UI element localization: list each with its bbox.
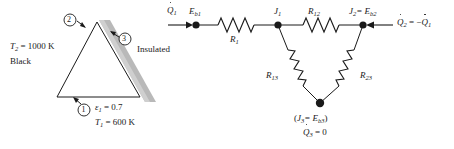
heat-flow-out-symbol: Q	[397, 17, 404, 28]
surface2-property-label: Black	[10, 56, 31, 66]
resistor-r23-zigzag	[336, 50, 354, 86]
heat-flow-in-label: Q1	[167, 5, 177, 18]
surface2-condition-label: T2 = 1000 K Black	[10, 40, 55, 67]
node-j3-label: (J3= Eb3)	[294, 113, 328, 126]
surface-marker-1-label: 1	[82, 104, 86, 115]
node-j2-equals: = E	[356, 6, 370, 16]
heat-flow-out-relation-sub: 1	[428, 21, 431, 28]
marker-2-text: 2	[67, 15, 71, 24]
resistor-r1-sub: 1	[236, 38, 239, 45]
marker-1-text: 1	[82, 105, 86, 114]
bottom-heat-flux-label: Q3 = 0	[303, 127, 327, 140]
node-j2-dot	[359, 21, 366, 28]
node-j1-sub: 1	[278, 10, 281, 17]
heat-flow-in-arrowhead	[186, 22, 193, 29]
surface3-insulated-label: Insulated	[137, 44, 170, 55]
node-j3-equals: = E	[304, 113, 318, 123]
heat-flow-out-arrowhead	[366, 22, 374, 29]
radiation-enclosure-and-network-figure: T2 = 1000 K Black Insulated ε1 = 0.7 T1 …	[0, 0, 454, 149]
heat-flow-out-relation-symbol: Q	[421, 17, 428, 28]
resistor-r23-sub: 23	[366, 74, 373, 81]
node-eb1-dot	[192, 21, 199, 28]
surface1-temperature-value: = 600 K	[106, 117, 136, 127]
node-j2-label: J2= Eb2	[349, 6, 377, 19]
resistor-r23-label: R23	[360, 70, 372, 83]
surface1-temperature-sub: 1	[100, 121, 103, 128]
node-j1-label: J1	[274, 6, 281, 19]
insulated-text: Insulated	[137, 44, 170, 54]
marker-3-text: 3	[122, 34, 126, 43]
node-eb1-sub: b1	[195, 10, 202, 17]
surface1-emissivity-sub: 1	[99, 106, 102, 113]
resistor-r13-zigzag	[288, 50, 306, 86]
surface2-temperature-sub: 2	[15, 45, 18, 52]
node-j3-paren-close: )	[325, 113, 328, 123]
resistor-r1-label: R1	[230, 34, 239, 47]
heat-flow-in-symbol: Q	[167, 5, 174, 16]
network-group	[168, 18, 393, 107]
surface2-temperature-value: = 1000 K	[21, 41, 55, 51]
wire-j1-to-r13	[278, 25, 288, 50]
wire-j2-to-r23	[354, 25, 363, 50]
resistor-r12-zigzag	[303, 18, 339, 32]
surface-marker-3-label: 3	[122, 33, 126, 44]
resistor-r12-sub: 12	[314, 10, 321, 17]
surface-marker-2-arrowhead	[80, 22, 86, 28]
surface1-emissivity-value: = 0.7	[104, 102, 123, 112]
resistor-r1-zigzag	[218, 18, 254, 32]
heat-flow-out-label: Q2 = −Q1	[397, 17, 431, 30]
surface-marker-2-label: 2	[67, 14, 71, 25]
node-j2-equals-sub: b2	[370, 10, 377, 17]
resistor-r12-label: R12	[308, 6, 320, 19]
heat-flow-out-relation: = −	[409, 17, 421, 27]
surface1-condition-label: ε1 = 0.7 T1 = 600 K	[95, 101, 135, 131]
bottom-flux-symbol: Q	[303, 127, 310, 138]
bottom-flux-value: = 0	[315, 127, 327, 137]
node-j1-dot	[274, 21, 281, 28]
node-eb1-label: Eb1	[189, 6, 201, 19]
node-j3-dot	[316, 99, 324, 107]
resistor-r13-label: R13	[266, 70, 278, 83]
resistor-r13-sub: 13	[272, 74, 279, 81]
